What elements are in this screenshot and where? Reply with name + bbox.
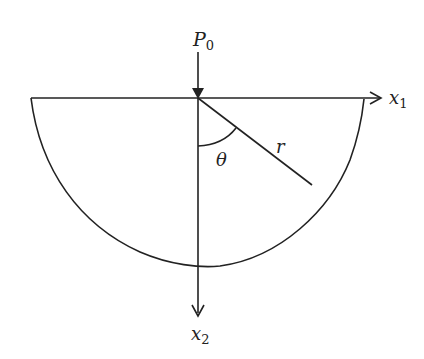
radius-line — [198, 98, 312, 185]
theta-arc — [198, 128, 236, 146]
radius-label: r — [276, 136, 286, 157]
x1-label: x1 — [389, 87, 407, 111]
x2-label: x2 — [191, 323, 209, 347]
force-label: P0 — [192, 28, 214, 53]
theta-label: θ — [216, 149, 227, 170]
half-space-diagram: P0 x1 x2 r θ — [0, 0, 424, 359]
